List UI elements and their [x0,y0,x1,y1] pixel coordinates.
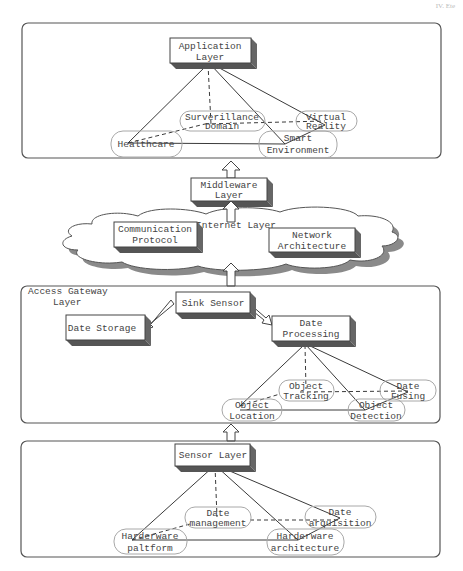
date-storage-box[interactable]: Date Storage [66,315,151,346]
node-object-tracking[interactable]: Object Tracking [279,380,334,402]
network-architecture-label-1: Network [292,230,332,241]
iot-architecture-diagram: Application Layer Surverillance Domain V… [0,0,463,571]
sensor-layer-panel: Sensor Layer Date management Date arquis… [21,441,440,557]
node-object-location[interactable]: Object Location [222,399,282,422]
node-label: Environment [267,145,330,156]
internet-layer-label: Internet Layer [196,220,276,231]
date-processing-label-1: Date [300,318,323,329]
node-label: Smart [284,133,313,144]
node-label: Fusing [391,391,425,402]
sensor-layer-title: Sensor Layer [179,450,247,461]
node-label: Detection [350,411,401,422]
node-hardware-platform[interactable]: Harderware paltform [114,529,187,554]
network-architecture-label-2: Architecture [278,241,347,252]
node-label: Object [235,400,269,411]
node-label: Healthcare [117,139,174,150]
access-gateway-label-1: Access Gateway [28,286,108,297]
application-layer-box[interactable]: Application Layer [170,38,257,69]
node-hardware-architecture[interactable]: Harderware architecture [267,529,344,555]
sink-sensor-box[interactable]: Sink Sensor [176,292,256,319]
arrow-sensor-to-access [223,424,239,441]
node-label: Tracking [283,391,329,402]
node-label: Reality [306,121,346,132]
communication-protocol-label-2: Protocol [132,235,178,246]
middleware-title-2: Layer [215,190,244,201]
network-architecture-box[interactable]: Network Architecture [269,228,361,258]
arrow-middleware-to-application [222,161,240,178]
node-label: paltform [127,543,173,554]
application-layer-title-1: Application [179,41,242,52]
node-label: Location [229,411,275,422]
node-label: management [189,518,246,529]
node-label: arquisition [309,518,372,529]
date-processing-label-2: Processing [282,329,339,340]
node-label: Object [359,400,393,411]
node-object-detection[interactable]: Object Detection [348,399,405,422]
node-label: Domain [205,121,239,132]
application-layer-title-2: Layer [196,52,225,63]
node-label: Date [329,507,352,518]
node-label: architecture [271,543,340,554]
communication-protocol-box[interactable]: Communication Protocol [114,222,203,253]
communication-protocol-label-1: Communication [118,224,192,235]
node-date-management[interactable]: Date management [185,507,251,529]
node-date-arquisition[interactable]: Date arquisition [305,506,376,529]
sink-sensor-label: Sink Sensor [182,298,245,309]
sensor-layer-box[interactable]: Sensor Layer [175,444,256,472]
date-processing-box[interactable]: Date Processing [272,316,356,347]
access-gateway-label-2: Layer [53,297,82,308]
node-label: Harderware [276,531,333,542]
application-layer-panel: Application Layer Surverillance Domain V… [22,23,441,158]
access-gateway-panel: Access Gateway Layer Sink Sensor [21,286,440,423]
date-storage-label: Date Storage [68,323,137,334]
node-label: Harderware [121,531,178,542]
